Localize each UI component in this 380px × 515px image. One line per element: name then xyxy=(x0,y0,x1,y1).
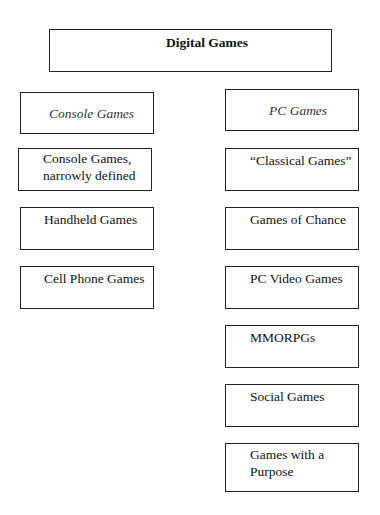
pc-item-classical: “Classical Games” xyxy=(225,148,359,191)
pc-item-video: PC Video Games xyxy=(225,266,359,309)
pc-item-mmorpg: MMORPGs xyxy=(225,325,359,368)
console-item-narrow: Console Games, narrowly defined xyxy=(18,148,152,191)
console-item-cellphone: Cell Phone Games xyxy=(20,266,154,309)
console-item-label: Console Games, xyxy=(43,151,132,167)
pc-item-chance: Games of Chance xyxy=(225,207,359,250)
console-item-label: Cell Phone Games xyxy=(44,271,145,287)
console-item-label: Handheld Games xyxy=(44,212,137,228)
pc-item-label: PC Video Games xyxy=(250,271,343,287)
console-header-label: Console Games xyxy=(49,106,134,122)
pc-item-label: Games of Chance xyxy=(250,212,346,228)
pc-item-purpose: Games with a Purpose xyxy=(225,443,359,492)
pc-games-header: PC Games xyxy=(225,89,359,131)
pc-item-label: Games with a xyxy=(250,447,324,463)
root-label: Digital Games xyxy=(166,35,248,51)
console-item-handheld: Handheld Games xyxy=(20,207,154,250)
console-games-header: Console Games xyxy=(20,92,154,134)
pc-item-social: Social Games xyxy=(225,384,359,427)
pc-item-label: MMORPGs xyxy=(250,330,315,346)
pc-header-label: PC Games xyxy=(269,103,327,119)
pc-item-label: Social Games xyxy=(250,389,325,405)
pc-item-label: Purpose xyxy=(250,464,294,480)
root-node: Digital Games xyxy=(49,29,332,72)
pc-item-label: “Classical Games” xyxy=(250,153,352,169)
console-item-label: narrowly defined xyxy=(43,168,136,184)
